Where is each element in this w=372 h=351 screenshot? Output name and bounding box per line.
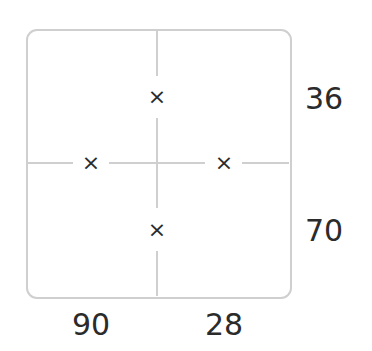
horizontal-divider-right — [242, 162, 289, 164]
bottom-label-right: 28 — [205, 310, 243, 340]
cross-mark-top: × — [146, 86, 168, 108]
right-label-top: 36 — [305, 84, 343, 114]
cross-mark-right: × — [213, 152, 235, 174]
vertical-divider-bottom — [156, 251, 158, 296]
bottom-label-left: 90 — [72, 310, 110, 340]
horizontal-divider-middle — [109, 162, 205, 164]
vertical-divider-top — [156, 30, 158, 76]
cross-mark-left: × — [80, 152, 102, 174]
horizontal-divider-left — [27, 162, 73, 164]
right-label-bottom: 70 — [305, 216, 343, 246]
cross-mark-bottom: × — [146, 219, 168, 241]
puzzle-frame — [26, 29, 292, 299]
